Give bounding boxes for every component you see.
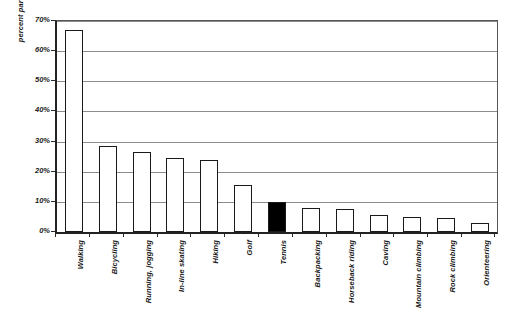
x-axis-label-slot: Caving [360, 238, 394, 325]
x-axis-tick-mark [89, 233, 90, 237]
x-axis-tick-mark [258, 233, 259, 237]
x-axis-label-slot: Walking [55, 238, 89, 325]
x-axis-category-label: Bicycling [110, 240, 119, 274]
x-axis-label-slot: Orienteering [461, 238, 495, 325]
x-axis-label-slot: Backpacking [292, 238, 326, 325]
x-axis-category-label: Hiking [211, 240, 220, 264]
x-axis-category-label: Backpacking [313, 240, 322, 287]
y-axis-tick-labels: 0%10%20%30%40%50%60%70% [24, 20, 50, 231]
x-axis-category-label: Rock climbing [448, 240, 457, 293]
x-axis-category-labels: WalkingBicyclingRunning, joggingIn-line … [55, 238, 495, 325]
bar-caving [370, 215, 388, 232]
x-axis-category-label: Horseback riding [347, 240, 356, 303]
y-axis-tick-label: 70% [24, 16, 50, 24]
bar-slot [429, 21, 463, 232]
bar-slot [294, 21, 328, 232]
y-axis-tick-label: 10% [24, 197, 50, 205]
x-axis-tick-mark [190, 233, 191, 237]
bar-tennis [268, 202, 286, 232]
x-axis-tick-mark [123, 233, 124, 237]
x-axis-label-slot: Bicycling [89, 238, 123, 325]
x-axis-label-slot: Horseback riding [326, 238, 360, 325]
bar-rock-climbing [437, 218, 455, 232]
x-axis-label-slot: Running, jogging [123, 238, 157, 325]
x-axis-category-label: Tennis [279, 240, 288, 265]
x-axis-label-slot: Tennis [258, 238, 292, 325]
x-axis-category-label: Running, jogging [144, 240, 153, 303]
bar-slot [226, 21, 260, 232]
bar-slot [57, 21, 91, 232]
y-axis-tick-label: 0% [24, 227, 50, 235]
x-axis-tick-mark [494, 233, 495, 237]
bar-slot [260, 21, 294, 232]
bars-layer [57, 21, 497, 232]
bar-bicycling [99, 146, 117, 232]
x-axis-tick-mark [55, 233, 56, 237]
x-axis-tick-mark [393, 233, 394, 237]
bar-slot [328, 21, 362, 232]
x-axis-label-slot: In-line skating [157, 238, 191, 325]
bar-slot [159, 21, 193, 232]
x-axis-label-slot: Golf [224, 238, 258, 325]
x-axis-tick-mark [461, 233, 462, 237]
y-axis-tick-label: 20% [24, 167, 50, 175]
bar-slot [192, 21, 226, 232]
x-axis-category-label: Orienteering [482, 240, 491, 286]
plot-area [55, 20, 498, 234]
bar-mountain-climbing [403, 217, 421, 232]
bar-slot [125, 21, 159, 232]
bar-slot [91, 21, 125, 232]
bar-backpacking [302, 208, 320, 232]
y-axis-tick-label: 50% [24, 76, 50, 84]
bar-slot [362, 21, 396, 232]
bar-in-line-skating [166, 158, 184, 232]
bar-horseback-riding [336, 209, 354, 232]
x-axis-tick-mark [326, 233, 327, 237]
x-axis-label-slot: Hiking [190, 238, 224, 325]
x-axis-label-slot: Mountain climbing [393, 238, 427, 325]
bar-golf [234, 185, 252, 232]
x-axis-label-slot: Rock climbing [427, 238, 461, 325]
y-axis-tick-label: 60% [24, 46, 50, 54]
x-axis-category-label: In-line skating [177, 240, 186, 292]
x-axis-category-label: Golf [245, 240, 254, 255]
bar-orienteering [471, 223, 489, 232]
x-axis-tick-mark [360, 233, 361, 237]
bar-chart-figure: percent participating 0%10%20%30%40%50%6… [0, 0, 531, 325]
bar-slot [395, 21, 429, 232]
x-axis-tick-mark [224, 233, 225, 237]
bar-hiking [200, 160, 218, 232]
bar-slot [463, 21, 497, 232]
x-axis-category-label: Caving [381, 240, 390, 266]
y-axis-tick-label: 30% [24, 137, 50, 145]
x-axis-category-label: Walking [76, 240, 85, 269]
x-axis-category-label: Mountain climbing [414, 240, 423, 308]
bar-walking [65, 30, 83, 232]
x-axis-tick-mark [292, 233, 293, 237]
x-axis-tick-mark [157, 233, 158, 237]
y-axis-tick-label: 40% [24, 106, 50, 114]
x-axis-tick-mark [427, 233, 428, 237]
bar-running-jogging [133, 152, 151, 232]
